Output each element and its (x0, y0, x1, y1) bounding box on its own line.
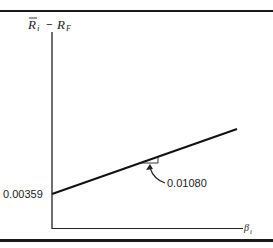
x-axis-label: β i (243, 222, 252, 236)
y-axis-label: R i − R F (27, 17, 71, 33)
x-label-beta: β (243, 222, 249, 233)
intercept-label: 0.00359 (3, 188, 43, 200)
slope-arrow (150, 168, 165, 183)
x-label-i: i (250, 228, 252, 236)
slope-label: 0.01080 (167, 177, 207, 189)
y-label-RF: R (56, 17, 65, 32)
arrowhead-icon (146, 164, 153, 170)
y-label-minus: − (46, 18, 52, 30)
chart-plot: R i − R F β i 0.01080 0.00359 (0, 0, 273, 248)
y-label-i: i (37, 23, 40, 33)
y-label-F: F (65, 24, 71, 33)
sml-line (52, 129, 237, 194)
chart-figure: R i − R F β i 0.01080 0.00359 (0, 0, 273, 248)
y-label-R: R (27, 17, 36, 32)
